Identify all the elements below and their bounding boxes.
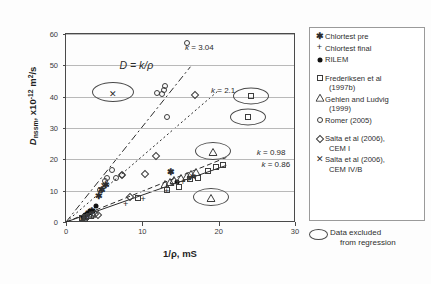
excluded-data-ellipse [92,82,134,102]
legend-marker-diamond-icon [314,134,325,144]
y-tick-label: 20 [50,155,58,164]
y-axis-exponent: -12 [27,89,34,99]
legend-marker-open-circle-icon [314,116,325,126]
y-axis-units-exponent: 2 [27,75,34,79]
excluded-note-line2: from regression [330,238,396,248]
legend-marker-triangle-icon [314,95,325,105]
gridline-y [66,191,294,192]
ellipse-icon [309,229,328,240]
x-tick-mark [219,222,220,226]
legend-label: Chlortest final [325,44,371,54]
legend-label: Salta et al (2006),CEM IV/B [325,155,385,174]
legend-item[interactable]: ✕Salta et al (2006),CEM IV/B [314,155,421,174]
formula-annotation: D = k/ρ [119,59,153,71]
k-value-annotation: k = 0.86 [261,160,290,169]
legend-item[interactable]: Romer (2005) [314,116,421,126]
legend-label: Gehlen and Ludvig(1999) [325,95,389,114]
y-axis-symbol: D [27,138,38,145]
legend-label-line2: CEM IV/B [325,165,385,175]
legend-label: RILEM [325,55,348,65]
y-tick-mark [63,97,66,98]
excluded-data-ellipse [193,188,229,206]
legend-item[interactable]: +Chlortest final [314,44,421,54]
legend-spacer [314,127,421,134]
y-tick-mark [63,65,66,66]
k-value-annotation: k = 0.98 [257,148,286,157]
legend-label-line2: CEM I [325,144,385,154]
y-tick-label: 40 [50,92,58,101]
x-tick-label: 0 [64,227,68,236]
y-tick-mark [63,159,66,160]
y-tick-label: 30 [50,124,58,133]
legend-marker-square-icon [314,74,325,84]
x-tick-label: 10 [138,227,146,236]
excluded-note-line1: Data excluded [330,228,381,237]
k-value-annotation: k = 2.1 [211,86,235,95]
y-tick-mark [63,128,66,129]
excluded-data-ellipse [230,109,266,126]
excluded-data-note: Data excluded from regression [309,228,429,248]
y-tick-label: 50 [50,61,58,70]
legend-spacer [314,67,421,74]
gridline-y [66,34,294,35]
gridline-y [66,159,294,160]
legend-marker-plus-icon: + [314,44,325,54]
x-tick-mark [66,222,67,226]
legend-label: Romer (2005) [325,116,372,126]
y-tick-mark [63,191,66,192]
legend-item[interactable]: Salta et al (2006),CEM I [314,134,421,153]
legend-label: Chlortest pre [325,32,368,42]
legend-item[interactable]: Frederiksen et al(1997b) [314,74,421,93]
legend: ✱Chlortest pre+Chlortest finalRILEMFrede… [309,27,425,221]
excluded-data-ellipse [195,142,231,160]
x-tick-mark [295,222,296,226]
x-tick-label: 30 [291,227,299,236]
y-axis-units-tail: /s [27,67,38,75]
legend-marker-asterisk-icon: ✱ [314,32,325,42]
legend-label: Salta et al (2006),CEM I [325,134,385,153]
y-axis-label: Dnssm, x10-12 m2/s [27,11,39,201]
y-axis-rest: , x10 [27,99,38,120]
y-tick-mark [63,34,66,35]
legend-label-line2: (1999) [325,104,389,114]
gridline-y [66,65,294,66]
chart-figure: 01020304050600102030✱✱✱✱✱✱✱++++++++✕✕✕✕✕… [0,0,431,284]
gridline-y [66,128,294,129]
excluded-data-ellipse [233,88,269,105]
excluded-note-text: Data excluded from regression [330,228,396,248]
x-axis-label: 1/ρ, mS [65,248,295,259]
plot-area: 01020304050600102030✱✱✱✱✱✱✱++++++++✕✕✕✕✕… [65,33,295,222]
x-tick-mark [142,222,143,226]
y-tick-label: 60 [50,30,58,39]
y-axis-units: m [27,78,38,89]
y-tick-label: 0 [54,218,58,227]
legend-label: Frederiksen et al(1997b) [325,74,382,93]
legend-item[interactable]: ✱Chlortest pre [314,32,421,42]
legend-item[interactable]: RILEM [314,55,421,65]
legend-label-line2: (1997b) [325,83,382,93]
k-value-annotation: k = 3.04 [185,43,214,52]
y-tick-label: 10 [50,186,58,195]
legend-marker-filled-circle-icon [314,55,325,65]
y-axis-subscript: nssm [32,120,39,138]
legend-item[interactable]: Gehlen and Ludvig(1999) [314,95,421,114]
x-tick-label: 20 [214,227,222,236]
legend-marker-x-cross-icon: ✕ [314,155,325,165]
